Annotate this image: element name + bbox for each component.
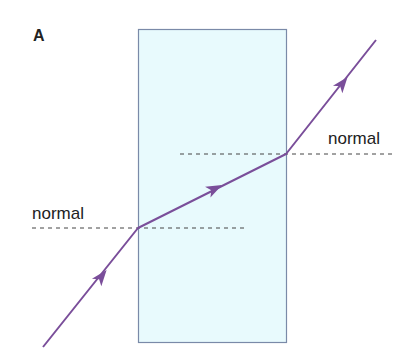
normal-label-left: normal <box>32 205 84 222</box>
refraction-diagram: A normal normal <box>0 0 415 360</box>
normal-label-right: normal <box>328 130 380 147</box>
diagram-canvas <box>0 0 415 360</box>
panel-label: A <box>33 28 45 44</box>
